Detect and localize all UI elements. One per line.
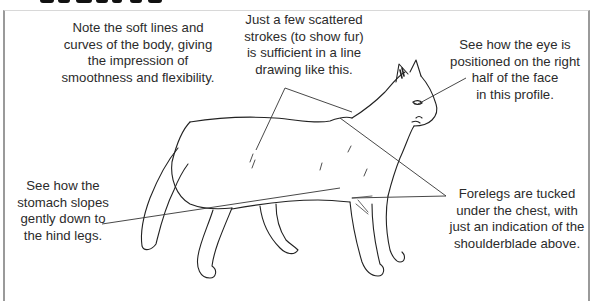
annotation-line: Forelegs are tucked bbox=[448, 186, 586, 203]
annotation-soft-lines: Note the soft lines and curves of the bo… bbox=[35, 20, 241, 86]
annotation-forelegs: Forelegs are tucked under the chest, wit… bbox=[448, 186, 586, 252]
cat-tail bbox=[141, 148, 188, 250]
annotation-line: gently down to bbox=[8, 211, 118, 228]
leader-forelegs-shoulder bbox=[340, 118, 446, 196]
annotation-line: the impression of bbox=[35, 53, 241, 70]
annotation-line: Note the soft lines and bbox=[35, 20, 241, 37]
leader-stomach bbox=[102, 188, 340, 224]
cat-chest-line bbox=[388, 126, 414, 196]
cat-ear-right-icon bbox=[410, 60, 421, 76]
leader-fur-to-shoulder bbox=[285, 88, 352, 112]
annotation-line: See how the eye is bbox=[440, 37, 590, 54]
annotation-line: strokes (to show fur) bbox=[222, 29, 386, 46]
annotation-eye-position: See how the eye is positioned on the rig… bbox=[440, 37, 590, 103]
annotation-line: curves of the body, giving bbox=[35, 37, 241, 54]
annotation-line: just an indication of the bbox=[448, 219, 586, 236]
annotation-line: smoothness and flexibility. bbox=[35, 70, 241, 87]
cat-ear-left-icon bbox=[396, 64, 408, 82]
annotation-line: shoulderblade above. bbox=[448, 236, 586, 253]
annotation-line: in this profile. bbox=[440, 87, 590, 104]
annotation-line: under the chest, with bbox=[448, 203, 586, 220]
cat-hindleg-back bbox=[198, 208, 233, 278]
cat-foreleg-front bbox=[386, 196, 404, 262]
cat-rump-line bbox=[172, 122, 232, 209]
annotation-line: drawing like this. bbox=[222, 62, 386, 79]
annotation-line: Just a few scattered bbox=[222, 12, 386, 29]
annotation-fur-strokes: Just a few scattered strokes (to show fu… bbox=[222, 12, 386, 78]
cat-hindleg-front bbox=[260, 204, 298, 254]
annotation-stomach: See how the stomach slopes gently down t… bbox=[8, 178, 118, 244]
annotation-line: half of the face bbox=[440, 70, 590, 87]
annotation-line: is sufficient in a line bbox=[222, 45, 386, 62]
annotation-line: stomach slopes bbox=[8, 195, 118, 212]
annotation-line: positioned on the right bbox=[440, 54, 590, 71]
annotation-line: See how the bbox=[8, 178, 118, 195]
annotation-line: the hind legs. bbox=[8, 228, 118, 245]
